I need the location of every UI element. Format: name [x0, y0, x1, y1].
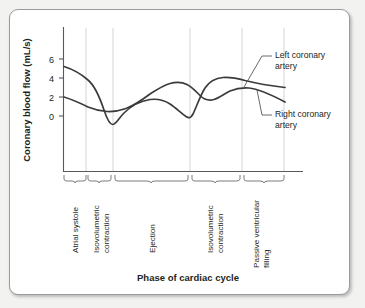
annotation-left-coronary-line2: artery [275, 61, 298, 71]
y-tick-label-6: 6 [49, 55, 54, 65]
phase-braces [64, 175, 284, 183]
x-axis-title: Phase of cardiac cycle [137, 272, 239, 283]
phase-label-passive-ventricular-filling-line1: Passive ventricular [252, 200, 261, 268]
annotation-right-coronary-line2: artery [275, 120, 298, 130]
phase-label-atrial-systole: Atrial systole [71, 207, 80, 253]
phase-label-isovolumetric-contraction-1-line2: contraction [102, 213, 111, 253]
brace-passive-ventricular-filling [244, 175, 284, 183]
curve-left-coronary-artery [64, 67, 285, 125]
phase-label-passive-ventricular-filling-line2: filling [262, 250, 271, 268]
phase-label-isovolumetric-contraction-2-line1: Isovolumetric [206, 205, 215, 253]
phase-label-isovolumetric-contraction-2-line2: contraction [216, 213, 225, 253]
y-axis-title: Coronary blood flow (mL/s) [21, 38, 32, 162]
y-tick-label-2: 2 [49, 93, 54, 103]
leader-line-left-coronary [244, 56, 272, 87]
chart-svg: 0 2 4 6 Coronary blood flow (mL/s) Left … [0, 0, 365, 308]
y-tick-label-0: 0 [49, 112, 54, 122]
brace-atrial-systole [64, 175, 86, 183]
brace-ejection [115, 175, 188, 183]
phase-label-ejection: Ejection [148, 224, 157, 253]
brace-isovolumetric-contraction-1 [88, 175, 111, 183]
grid-lines [86, 28, 284, 172]
phase-label-isovolumetric-contraction-1-line1: Isovolumetric [92, 205, 101, 253]
annotation-left-coronary-line1: Left coronary [275, 50, 326, 60]
coronary-blood-flow-chart: 0 2 4 6 Coronary blood flow (mL/s) Left … [0, 0, 365, 308]
brace-isovolumetric-contraction-2 [192, 175, 240, 183]
annotation-right-coronary-line1: Right coronary [275, 109, 332, 119]
y-tick-label-4: 4 [49, 74, 54, 84]
